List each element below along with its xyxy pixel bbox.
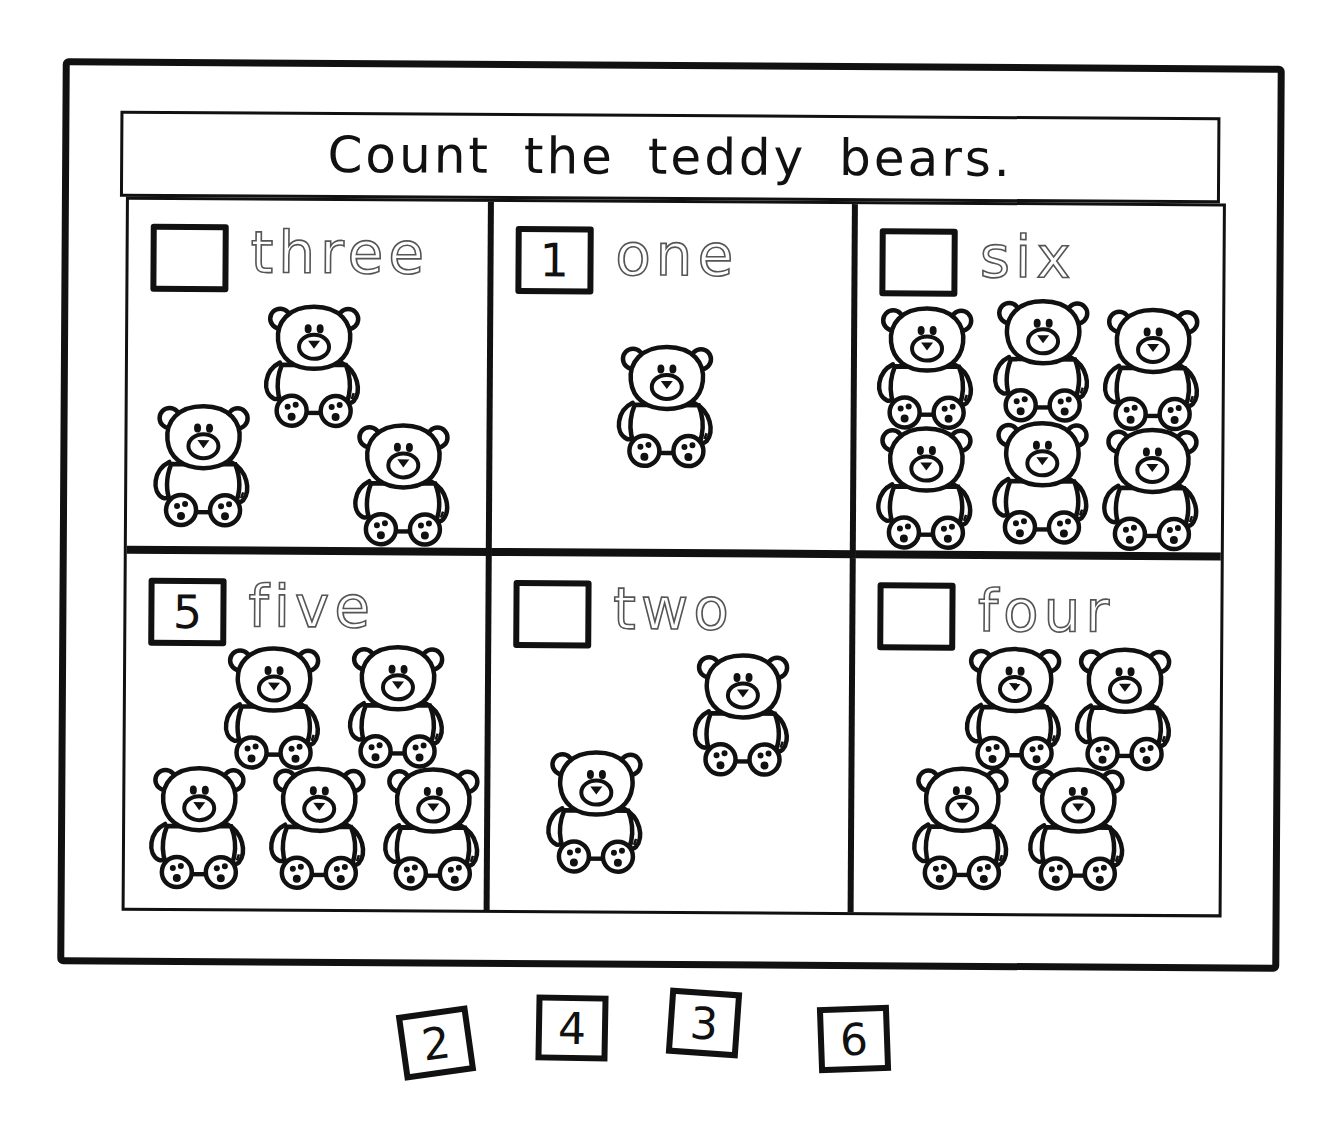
teddy-bear-icon — [263, 763, 376, 894]
answer-box[interactable] — [878, 582, 956, 650]
teddy-bear-icon — [870, 422, 983, 553]
cell-two: two — [489, 556, 856, 912]
cell-five: 5 five — [125, 554, 492, 910]
teddy-bear-icon — [686, 649, 799, 780]
page-title: Count the teddy bears. — [327, 126, 1013, 188]
title-bar: Count the teddy bears. — [120, 111, 1221, 204]
teddy-bear-icon — [147, 400, 260, 531]
cutout-tile-2[interactable]: 2 — [396, 1005, 476, 1080]
traced-number-word: two — [613, 575, 734, 644]
cutout-tile-3[interactable]: 3 — [666, 988, 742, 1059]
traced-number-word: five — [248, 572, 375, 641]
teddy-bear-icon — [987, 295, 1100, 426]
answer-box[interactable]: 5 — [148, 578, 226, 646]
teddy-bear-icon — [143, 762, 256, 893]
cell-one: 1 one — [491, 202, 858, 558]
cell-six: six — [856, 204, 1223, 560]
teddy-bear-icon — [258, 300, 371, 431]
answer-box[interactable] — [880, 228, 958, 296]
cutout-tile-4[interactable]: 4 — [535, 994, 608, 1061]
teddy-bear-icon — [377, 763, 490, 894]
teddy-bear-icon — [986, 417, 1099, 548]
teddy-bear-icon — [1069, 643, 1182, 774]
teddy-bear-icon — [906, 762, 1019, 893]
cell-three: three — [127, 200, 494, 556]
cutout-tile-6[interactable]: 6 — [817, 1005, 891, 1073]
teddy-bear-icon — [610, 341, 723, 472]
teddy-bear-icon — [217, 642, 330, 773]
answer-box[interactable] — [150, 224, 228, 292]
traced-number-word: six — [980, 223, 1076, 292]
traced-number-word: one — [615, 221, 738, 290]
teddy-bear-icon — [539, 746, 652, 877]
teddy-bear-icon — [1096, 424, 1209, 555]
traced-number-word: three — [250, 218, 429, 287]
teddy-bear-icon — [871, 302, 984, 433]
counting-grid: three 1 one six 5 five — [122, 197, 1226, 918]
teddy-bear-icon — [1022, 763, 1135, 894]
traced-number-word: four — [978, 577, 1115, 646]
answer-box[interactable] — [513, 580, 591, 648]
teddy-bear-icon — [1097, 304, 1210, 435]
teddy-bear-icon — [347, 419, 460, 550]
teddy-bear-icon — [959, 643, 1072, 774]
cell-four: four — [854, 558, 1221, 914]
answer-box[interactable]: 1 — [515, 226, 593, 294]
worksheet: Count the teddy bears. three 1 one six — [116, 111, 1221, 924]
teddy-bear-icon — [341, 641, 454, 772]
